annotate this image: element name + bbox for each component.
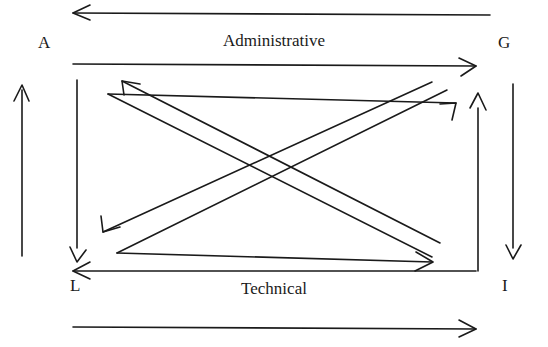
diagonal-lower-left-arrow xyxy=(101,82,432,232)
box-right-arrow xyxy=(470,93,486,271)
diagonal-upper-right-arrow xyxy=(108,94,456,120)
corner-label-g: G xyxy=(498,34,510,51)
diagram-page: A G L I Administrative Technical xyxy=(0,0,548,347)
outer-left-arrow xyxy=(14,85,29,256)
box-left-arrow xyxy=(70,80,86,262)
outer-top-arrow xyxy=(73,5,490,20)
diagonal-band-strand-lower xyxy=(117,90,447,253)
corner-label-i: I xyxy=(502,277,508,294)
side-label-administrative: Administrative xyxy=(154,32,394,49)
diagonal-lower-right-arrow xyxy=(117,252,433,271)
outer-bottom-arrow xyxy=(73,320,476,337)
box-top-arrow xyxy=(73,58,476,76)
corner-label-a: A xyxy=(38,34,50,51)
side-label-technical: Technical xyxy=(154,280,394,297)
corner-label-l: L xyxy=(70,277,80,294)
diagonal-upper-left-arrow xyxy=(122,81,440,243)
outer-right-arrow xyxy=(506,84,521,259)
